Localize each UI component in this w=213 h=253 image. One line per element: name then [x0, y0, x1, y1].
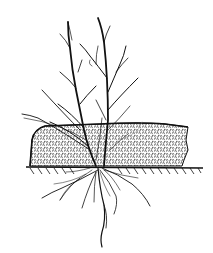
roots — [42, 168, 150, 247]
shrub-drawing — [0, 0, 213, 253]
shrub-illustration — [0, 0, 213, 253]
